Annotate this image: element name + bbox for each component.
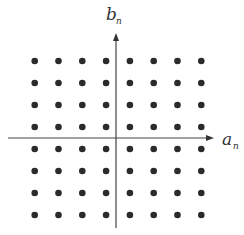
constellation-point: [31, 102, 38, 109]
constellation-point: [103, 102, 110, 109]
constellation-point: [55, 190, 62, 197]
constellation-point: [150, 102, 157, 109]
constellation-point: [79, 124, 86, 131]
constellation-point: [79, 102, 86, 109]
constellation-point: [31, 124, 38, 131]
constellation-point: [127, 212, 134, 219]
constellation-point: [103, 124, 110, 131]
constellation-point: [127, 168, 134, 175]
constellation-point: [55, 124, 62, 131]
constellation-point: [103, 190, 110, 197]
x-axis-label: a: [222, 129, 232, 149]
constellation-point: [79, 146, 86, 153]
constellation-point: [31, 146, 38, 153]
constellation-point: [127, 80, 134, 87]
constellation-point: [127, 58, 134, 65]
constellation-point: [55, 58, 62, 65]
constellation-point: [198, 80, 205, 87]
constellation-point: [55, 168, 62, 175]
constellation-point: [79, 212, 86, 219]
constellation-point: [150, 168, 157, 175]
constellation-point: [127, 146, 134, 153]
constellation-point: [198, 168, 205, 175]
constellation-point: [31, 212, 38, 219]
constellation-point: [31, 80, 38, 87]
x-axis-arrow-icon: [206, 135, 214, 141]
constellation-point: [198, 58, 205, 65]
constellation-point: [103, 58, 110, 65]
constellation-point: [103, 168, 110, 175]
y-axis-arrow-icon: [113, 33, 119, 41]
constellation-point: [55, 102, 62, 109]
constellation-point: [150, 80, 157, 87]
constellation-point: [55, 212, 62, 219]
constellation-point: [150, 212, 157, 219]
constellation-point: [31, 58, 38, 65]
constellation-point: [198, 146, 205, 153]
y-axis-subscript: n: [116, 16, 122, 26]
constellation-point: [174, 212, 181, 219]
constellation-point: [79, 190, 86, 197]
constellation-point: [127, 124, 134, 131]
constellation-point: [150, 124, 157, 131]
x-axis-subscript: n: [233, 141, 239, 151]
constellation-point: [79, 58, 86, 65]
constellation-point: [79, 80, 86, 87]
constellation-point: [198, 190, 205, 197]
constellation-point: [150, 58, 157, 65]
constellation-point: [174, 58, 181, 65]
constellation-point: [198, 102, 205, 109]
constellation-point: [174, 124, 181, 131]
constellation-point: [174, 146, 181, 153]
constellation-point: [174, 102, 181, 109]
constellation-point: [174, 190, 181, 197]
constellation-point: [198, 212, 205, 219]
constellation-point: [127, 190, 134, 197]
constellation-point: [174, 80, 181, 87]
constellation-point: [198, 124, 205, 131]
constellation-point: [174, 168, 181, 175]
constellation-point: [103, 80, 110, 87]
constellation-point: [150, 146, 157, 153]
constellation-point: [55, 80, 62, 87]
constellation-point: [31, 168, 38, 175]
constellation-point: [150, 190, 157, 197]
constellation-point: [127, 102, 134, 109]
constellation-diagram: a n b n: [0, 0, 244, 235]
constellation-point: [103, 212, 110, 219]
constellation-point: [31, 190, 38, 197]
constellation-point: [79, 168, 86, 175]
constellation-point: [55, 146, 62, 153]
constellation-point: [103, 146, 110, 153]
